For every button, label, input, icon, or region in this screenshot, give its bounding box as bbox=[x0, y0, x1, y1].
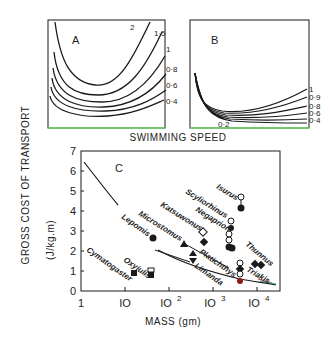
label-a-1.5: 1·5 bbox=[154, 29, 166, 38]
y-axis-title: GROSS COST OF TRANSPORT bbox=[20, 106, 31, 265]
y-ticks: 7 6 5 4 3 2 1 0 bbox=[70, 145, 84, 297]
y-unit-label: (J/kg.m) bbox=[45, 220, 56, 260]
curve-a-1 bbox=[53, 56, 165, 102]
svg-text:3: 3 bbox=[221, 294, 226, 303]
svg-text:7: 7 bbox=[70, 145, 76, 157]
svg-text:4: 4 bbox=[265, 294, 270, 303]
curve-b-0.6 bbox=[195, 73, 307, 118]
curve-b-0.9 bbox=[195, 73, 307, 113]
point-isurus bbox=[238, 205, 245, 212]
svg-text:IO: IO bbox=[119, 297, 131, 309]
svg-text:IO: IO bbox=[160, 297, 172, 309]
svg-text:IO: IO bbox=[204, 297, 216, 309]
point-triakis bbox=[237, 278, 243, 284]
x-ticks: 1 IO IO 2 IO 3 IO 4 bbox=[78, 287, 270, 309]
label-b-0.9: 0·9 bbox=[309, 93, 321, 102]
point-negaprion-open-2 bbox=[226, 237, 232, 243]
svg-text:1: 1 bbox=[70, 265, 76, 277]
mass-label: MASS (gm) bbox=[145, 316, 201, 327]
curve-b-1 bbox=[195, 73, 307, 112]
swimming-speed-label: SWIMMING SPEED bbox=[129, 132, 226, 143]
panel-b: B 1 0·9 0·8 0·6 0·4 0·2 bbox=[190, 20, 321, 129]
panel-a: A 2 1·5 1 0·8 0·6 0·4 bbox=[48, 20, 178, 128]
label-a-2: 2 bbox=[130, 23, 135, 32]
point-triakis-open-2 bbox=[237, 271, 243, 277]
point-microstomus bbox=[180, 240, 188, 247]
microstomus-line bbox=[155, 250, 190, 262]
svg-text:1: 1 bbox=[78, 297, 84, 309]
svg-text:3: 3 bbox=[70, 225, 76, 237]
label-a-0.4: 0·4 bbox=[166, 97, 178, 106]
point-platichthys bbox=[189, 250, 197, 256]
label-a-1: 1 bbox=[166, 45, 171, 54]
svg-text:6: 6 bbox=[70, 165, 76, 177]
svg-text:5: 5 bbox=[70, 185, 76, 197]
trend-line bbox=[84, 162, 118, 205]
panel-a-letter: A bbox=[72, 34, 80, 46]
point-negaprion-2 bbox=[229, 245, 236, 252]
label-b-0.4: 0·4 bbox=[309, 116, 321, 125]
curve-a-1.5 bbox=[54, 32, 162, 95]
label-b-0.2: 0·2 bbox=[218, 120, 230, 129]
figure: GROSS COST OF TRANSPORT A 2 1·5 1 0·8 0·… bbox=[0, 0, 330, 342]
point-katsuwonus bbox=[200, 238, 208, 246]
label-isurus: Isurus bbox=[215, 182, 241, 203]
label-a-0.8: 0·8 bbox=[166, 65, 178, 74]
svg-text:IO: IO bbox=[248, 297, 260, 309]
svg-text:2: 2 bbox=[177, 294, 182, 303]
label-triakis: Triakis bbox=[245, 265, 272, 286]
panel-b-letter: B bbox=[211, 34, 218, 46]
svg-text:0: 0 bbox=[70, 285, 76, 297]
panel-c-letter: C bbox=[115, 162, 123, 174]
panel-c: C (J/kg.m) 7 6 5 4 3 2 1 0 1 IO bbox=[45, 145, 280, 327]
species-labels: Cymatogaster Oxyjulis Lepomis Microstomu… bbox=[85, 182, 276, 288]
label-a-0.6: 0·6 bbox=[166, 81, 178, 90]
svg-text:2: 2 bbox=[70, 245, 76, 257]
svg-text:4: 4 bbox=[70, 205, 76, 217]
point-lepomis bbox=[150, 235, 157, 242]
